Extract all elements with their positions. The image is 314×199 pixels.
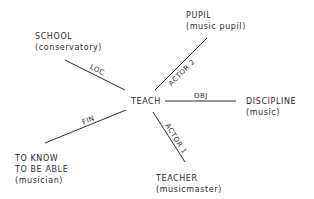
edge-label-obj: OBJ	[194, 92, 208, 100]
node-goal: TO KNOW TO BE ABLE (musician)	[15, 153, 68, 186]
node-discipline-sub: (music)	[246, 107, 296, 118]
node-discipline-label: DISCIPLINE	[246, 96, 296, 107]
node-pupil-sub: (music pupil)	[186, 21, 246, 32]
node-pupil: PUPIL (music pupil)	[186, 10, 246, 32]
edge-actor2	[155, 38, 207, 90]
node-goal-label-line2: TO BE ABLE	[15, 164, 68, 175]
center-node-teach: TEACH	[131, 96, 161, 107]
edge-fin	[45, 110, 126, 143]
node-discipline: DISCIPLINE (music)	[246, 96, 296, 118]
node-school: SCHOOL (conservatory)	[35, 31, 102, 53]
node-school-label: SCHOOL	[35, 31, 102, 42]
node-teacher-label: TEACHER	[156, 173, 222, 184]
node-goal-sub: (musician)	[15, 175, 68, 186]
center-node-label: TEACH	[131, 97, 161, 106]
node-goal-label-line1: TO KNOW	[15, 153, 68, 164]
node-teacher-sub: (musicmaster)	[156, 184, 222, 195]
node-teacher: TEACHER (musicmaster)	[156, 173, 222, 195]
node-school-sub: (conservatory)	[35, 42, 102, 53]
node-pupil-label: PUPIL	[186, 10, 246, 21]
